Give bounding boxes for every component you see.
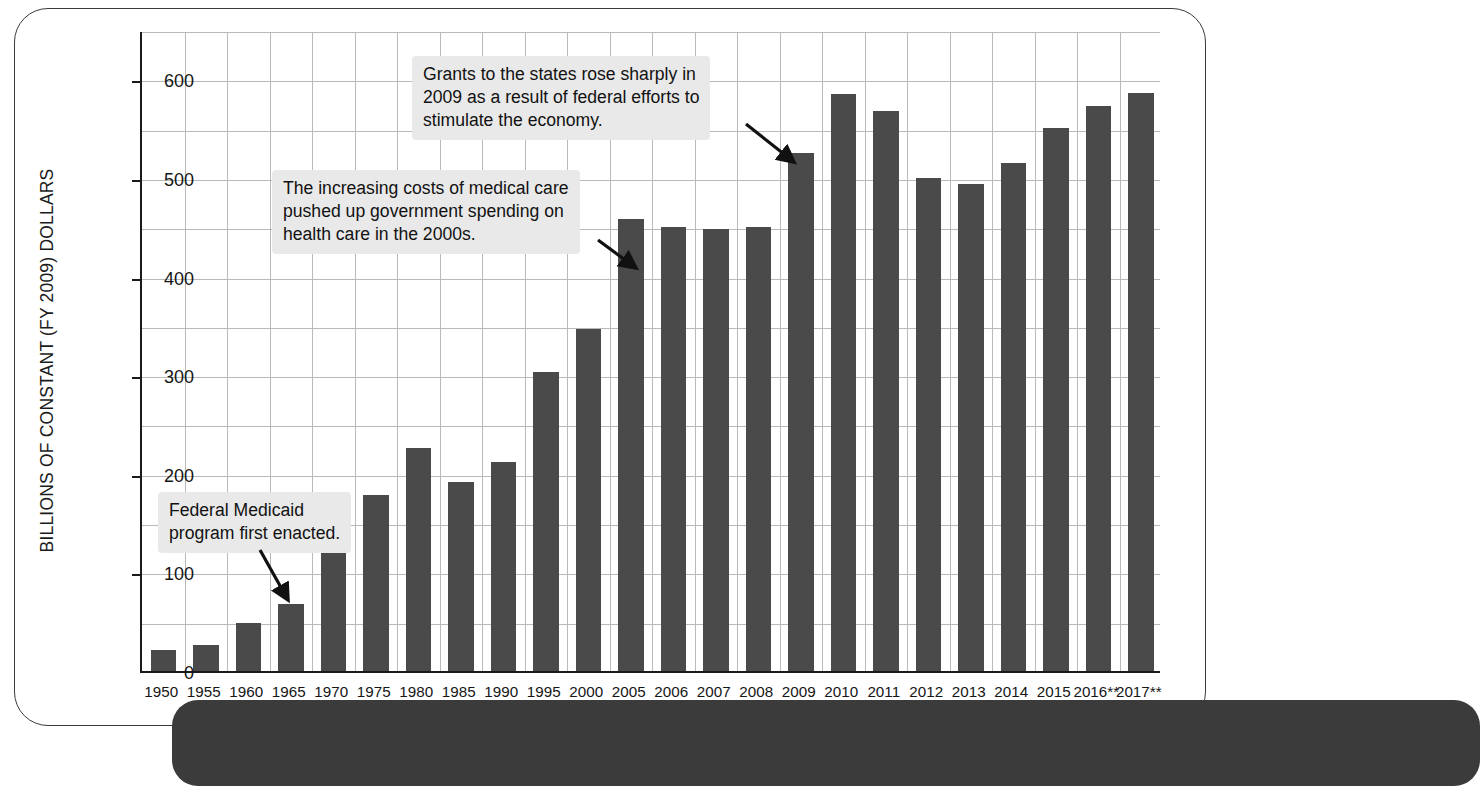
y-axis-tick-label: 100 [74,564,208,585]
bar [746,227,772,671]
y-axis-tick-mark [132,180,141,182]
annotation-arrow-grants-2009 [744,122,814,178]
x-axis-tick-label: 2006 [654,683,688,700]
bar [831,94,857,671]
bar [236,623,262,671]
bar [703,229,729,671]
annotation-grants-2009: Grants to the states rose sharply in 200… [412,56,710,140]
x-axis-tick-label: 2017** [1116,683,1162,700]
y-axis-tick-label: 0 [74,663,208,684]
x-axis-tick-label: 2016** [1073,683,1119,700]
x-axis-tick-label: 1980 [399,683,433,700]
annotation-arrow-medical-costs [596,238,660,288]
y-axis-tick-label: 500 [74,169,208,190]
x-axis-tick-label: 2011 [867,683,900,700]
x-axis-tick-label: 2008 [739,683,773,700]
bar [1086,106,1112,671]
x-axis-tick-label: 1950 [144,683,178,700]
y-axis-tick-mark [132,574,141,576]
bar [448,482,474,671]
y-axis-tick-mark [132,476,141,478]
x-axis-tick-label: 1975 [357,683,391,700]
annotation-medicaid-enacted: Federal Medicaid program first enacted. [158,492,351,553]
x-axis-tick-label: 1970 [314,683,348,700]
y-axis-tick-label: 200 [74,465,208,486]
bar [788,153,814,671]
x-axis-tick-label: 2010 [824,683,858,700]
y-axis-tick-mark [132,377,141,379]
y-axis-tick-label: 400 [74,268,208,289]
bar [661,227,687,671]
x-axis-tick-label: 1990 [484,683,518,700]
x-axis-tick-label: 2015 [1037,683,1071,700]
x-axis-tick-label: 2000 [569,683,603,700]
y-axis-tick-mark [132,279,141,281]
annotation-arrow-medicaid-enacted [258,548,318,618]
x-axis-tick-label: 2007 [697,683,731,700]
bar [1001,163,1027,671]
bar [406,448,432,671]
x-axis-tick-label: 1965 [272,683,306,700]
x-axis-tick-label: 1985 [442,683,476,700]
bar [873,111,899,671]
bar [1128,93,1154,671]
x-axis-tick-label: 1955 [187,683,221,700]
x-axis-tick-label: 2009 [782,683,816,700]
bar [363,495,389,671]
bar [533,372,559,671]
y-axis-tick-label: 600 [74,71,208,92]
x-axis-tick-label: 1995 [527,683,561,700]
annotation-medical-costs: The increasing costs of medical care pus… [272,170,580,254]
bar [958,184,984,671]
x-axis-tick-label: 2005 [612,683,646,700]
x-axis-tick-label: 2014 [994,683,1028,700]
x-axis-tick-label: 2012 [909,683,943,700]
y-axis-title: BILLIONS OF CONSTANT (FY 2009) DOLLARS [37,101,58,621]
x-axis-tick-label: 2013 [952,683,986,700]
bar [916,178,942,671]
bar [491,462,517,671]
bar [576,329,602,671]
bar [1043,128,1069,671]
bar [321,549,347,671]
y-axis-tick-mark [132,81,141,83]
x-axis-tick-label: 1960 [229,683,263,700]
y-axis-tick-label: 300 [74,367,208,388]
